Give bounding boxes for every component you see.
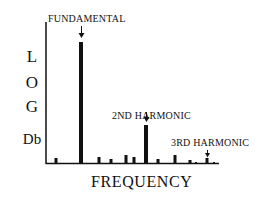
spectrum-bar (206, 158, 209, 163)
spectrum-bar (195, 162, 197, 163)
spectrum-bars (55, 42, 216, 163)
spectrum-bar (189, 160, 192, 163)
spectrum-bar (157, 159, 160, 163)
spectrum-bar (213, 162, 215, 163)
spectrum-bar (98, 157, 101, 163)
second-harmonic-arrow-icon (144, 112, 150, 122)
spectrum-bar (110, 159, 113, 163)
third-harmonic-arrow-icon (205, 150, 210, 158)
spectrum-bar (144, 125, 148, 163)
spectrum-bar (174, 155, 177, 163)
spectrum-bar (55, 158, 58, 163)
spectrum-bar (125, 155, 128, 163)
fundamental-arrow-icon (79, 26, 85, 38)
spectrum-bar (133, 157, 136, 163)
spectrum-plot (0, 0, 258, 202)
spectrum-bar (79, 42, 83, 163)
